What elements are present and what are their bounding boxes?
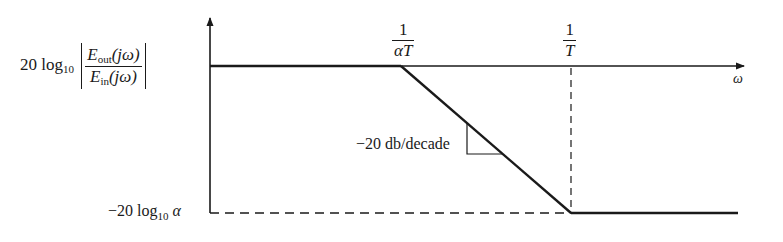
numerator-symbol: E xyxy=(87,45,97,64)
breakpoint-2-denominator: T xyxy=(563,41,576,61)
numerator-subscript: out xyxy=(98,53,112,65)
ratio-denominator: Ein(jω) xyxy=(88,67,139,88)
abs-bar-right xyxy=(145,43,146,89)
x-axis-label: ω xyxy=(733,72,743,86)
numerator-argument: (jω) xyxy=(112,45,140,64)
breakpoint-1-denominator: αT xyxy=(392,41,414,61)
denominator-argument: (jω) xyxy=(109,67,137,86)
slope-label: −20 db/decade xyxy=(356,136,450,152)
abs-bar-left xyxy=(81,43,82,89)
breakpoint-1-numerator: 1 xyxy=(397,20,410,40)
y-low-label: −20 log10 α xyxy=(108,203,181,222)
y-label-prefix: 20 log xyxy=(20,55,63,74)
y-label-subscript: 10 xyxy=(63,63,74,75)
low-label-prefix: −20 log xyxy=(108,202,157,219)
transfer-ratio: Eout(jω) Ein(jω) xyxy=(85,45,142,87)
ratio-numerator: Eout(jω) xyxy=(85,45,142,66)
y-axis-label: 20 log10 Eout(jω) Ein(jω) xyxy=(20,43,149,89)
low-label-symbol: α xyxy=(172,202,180,219)
denominator-subscript: in xyxy=(100,75,109,87)
breakpoint-label-2: 1 T xyxy=(563,20,576,60)
breakpoint-label-1: 1 αT xyxy=(392,20,414,60)
low-label-subscript: 10 xyxy=(157,210,168,222)
denominator-symbol: E xyxy=(90,67,100,86)
breakpoint-2-numerator: 1 xyxy=(563,20,576,40)
